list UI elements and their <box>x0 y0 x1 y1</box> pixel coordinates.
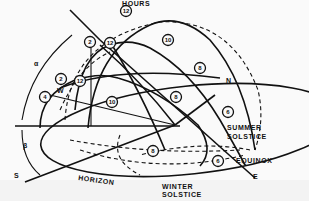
sun-path-diagram: 12 2 12 10 8 2 12 4 10 8 6 <box>0 0 309 201</box>
hour-marker-w-2: 2 <box>56 74 67 85</box>
diagram-svg: 12 2 12 10 8 2 12 4 10 8 6 <box>0 0 309 201</box>
hour-marker-4: 4 <box>40 92 51 103</box>
svg-text:12: 12 <box>123 8 130 14</box>
hour-marker-summer-8: 8 <box>195 63 206 74</box>
label-north: N <box>226 77 232 84</box>
svg-text:12: 12 <box>77 78 84 84</box>
hour-marker-8: 8 <box>171 92 182 103</box>
svg-text:10: 10 <box>109 99 116 105</box>
label-west: W <box>57 87 64 94</box>
label-winter-1: WINTER <box>162 183 193 190</box>
zenith-line <box>70 10 100 40</box>
beta-arc <box>22 130 40 175</box>
label-summer-2: SOLSTICE <box>227 133 267 140</box>
label-summer-1: SUMMER <box>227 124 262 131</box>
label-east: E <box>253 173 258 180</box>
hour-marker-top-12: 12 <box>121 6 132 17</box>
label-winter-2: SOLSTICE <box>162 191 202 198</box>
label-alpha: α <box>34 60 39 67</box>
label-horizon: HORIZON <box>78 174 115 186</box>
horizon-ellipse <box>36 71 309 190</box>
label-south: S <box>14 172 19 179</box>
hour-marker-10: 10 <box>107 97 118 108</box>
hour-marker-summer-6: 6 <box>223 107 234 118</box>
dashed-arc-inner <box>118 135 141 175</box>
label-hours: HOURS <box>122 0 150 7</box>
hour-marker-summer-12: 12 <box>105 38 116 49</box>
hour-marker-w-12: 12 <box>75 76 86 87</box>
hour-marker-winter-8: 8 <box>148 146 159 157</box>
label-beta: β <box>23 142 28 150</box>
svg-text:12: 12 <box>107 40 114 46</box>
svg-text:10: 10 <box>165 37 172 43</box>
hour-marker-equinox-6: 6 <box>213 156 224 167</box>
hour-marker-summer-10: 10 <box>163 35 174 46</box>
hour-marker-summer-2: 2 <box>85 37 96 48</box>
label-equinox: EQUINOX <box>236 157 272 165</box>
